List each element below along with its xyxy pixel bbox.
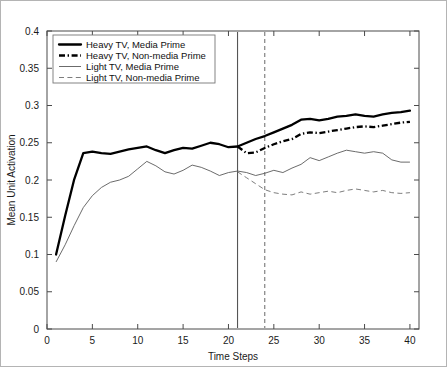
- x-tick-label: 15: [178, 335, 190, 346]
- annotation-lines: [238, 32, 265, 328]
- x-tick-label: 10: [132, 335, 144, 346]
- figure-container: 00.050.10.150.20.250.30.350.405101520253…: [0, 0, 447, 367]
- series-light-tv-media-prime: [56, 150, 410, 262]
- data-series: [56, 111, 410, 262]
- y-tick-label: 0.35: [20, 63, 40, 74]
- y-tick-label: 0.15: [20, 212, 40, 223]
- axis-titles: Time StepsMean Unit Activation: [6, 134, 258, 362]
- line-chart: 00.050.10.150.20.250.30.350.405101520253…: [1, 1, 447, 367]
- y-tick-label: 0: [33, 324, 39, 335]
- series-light-tv-non-media-prime: [238, 172, 410, 195]
- y-tick-label: 0.2: [25, 175, 39, 186]
- y-tick-label: 0.1: [25, 249, 39, 260]
- x-axis-title: Time Steps: [208, 351, 258, 362]
- y-tick-label: 0.25: [20, 137, 40, 148]
- legend-label-2: Light TV, Media Prime: [86, 61, 179, 72]
- x-tick-label: 0: [44, 335, 50, 346]
- x-tick-label: 35: [359, 335, 371, 346]
- legend: Heavy TV, Media PrimeHeavy TV, Non-media…: [53, 35, 215, 83]
- y-axis-title: Mean Unit Activation: [6, 134, 17, 225]
- y-tick-label: 0.3: [25, 100, 39, 111]
- y-tick-label: 0.05: [20, 286, 40, 297]
- x-tick-label: 25: [268, 335, 280, 346]
- legend-label-1: Heavy TV, Non-media Prime: [86, 50, 206, 61]
- x-tick-label: 30: [314, 335, 326, 346]
- legend-label-0: Heavy TV, Media Prime: [86, 39, 185, 50]
- x-tick-label: 20: [223, 335, 235, 346]
- y-tick-label: 0.4: [25, 26, 39, 37]
- legend-label-3: Light TV, Non-media Prime: [86, 72, 200, 83]
- x-tick-label: 40: [404, 335, 416, 346]
- x-tick-label: 5: [90, 335, 96, 346]
